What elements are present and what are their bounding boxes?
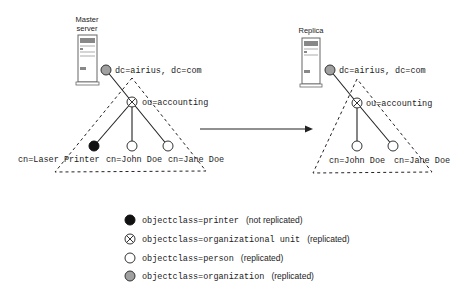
legend-item-organization: objectclass=organization (replicated) bbox=[125, 265, 314, 282]
replica-tree: Replica dc=airius, dc=com ou=accounting … bbox=[298, 26, 450, 173]
crossed-circle-icon bbox=[125, 234, 135, 244]
replica-server-icon bbox=[300, 38, 322, 87]
svg-text:objectclass=organization: objectclass=organization (replicated) bbox=[142, 265, 314, 282]
master-organization-node bbox=[101, 65, 111, 75]
legend-code: objectclass=organization bbox=[142, 272, 264, 282]
svg-text:objectclass=printer (n: objectclass=printer (not replicated) bbox=[142, 209, 303, 226]
legend-note: (replicated) bbox=[241, 253, 284, 263]
master-server-icon bbox=[76, 35, 99, 85]
replica-organization-node bbox=[325, 65, 335, 75]
master-leaf-label-printer: cn=Laser Printer bbox=[18, 155, 100, 165]
master-john-node bbox=[127, 141, 137, 151]
master-ou-node bbox=[127, 97, 137, 107]
legend-note: (replicated) bbox=[307, 234, 350, 244]
replica-ou-node bbox=[352, 98, 362, 108]
master-leaf-label-jane: cn=Jane Doe bbox=[168, 155, 224, 165]
legend-note: (replicated) bbox=[271, 271, 314, 281]
legend-item-printer: objectclass=printer (not replicated) bbox=[125, 209, 303, 226]
replica-john-node bbox=[352, 141, 362, 151]
master-jane-node bbox=[163, 141, 173, 151]
replication-arrow bbox=[200, 126, 313, 133]
replica-ou-label: ou=accounting bbox=[366, 99, 432, 109]
replica-jane-node bbox=[388, 141, 398, 151]
master-server-label-line1: Master bbox=[76, 15, 99, 24]
legend-item-person: objectclass=person (replicated) bbox=[125, 247, 284, 264]
master-leaf-label-john: cn=John Doe bbox=[106, 155, 162, 165]
legend-code: objectclass=organizational unit bbox=[142, 235, 300, 245]
svg-text:objectclass=person (re: objectclass=person (replicated) bbox=[142, 247, 284, 264]
replica-root-label: dc=airius, dc=com bbox=[339, 66, 426, 76]
legend-note: (not replicated) bbox=[246, 215, 303, 225]
master-printer-node bbox=[89, 141, 99, 151]
filled-black-circle-icon bbox=[125, 215, 135, 225]
replica-server-label: Replica bbox=[298, 26, 324, 35]
replication-diagram: Master server dc=airius, dc=com bbox=[0, 0, 471, 301]
gray-circle-icon bbox=[125, 271, 135, 281]
master-root-label: dc=airius, dc=com bbox=[115, 66, 202, 76]
replica-leaf-label-john: cn=John Doe bbox=[329, 156, 385, 166]
master-server-label-line2: server bbox=[77, 24, 98, 33]
legend-code: objectclass=person bbox=[142, 254, 234, 264]
legend: objectclass=printer (not replicated) obj… bbox=[125, 209, 350, 282]
master-ou-label: ou=accounting bbox=[142, 98, 208, 108]
legend-item-ou: objectclass=organizational unit (replica… bbox=[125, 228, 350, 245]
open-circle-icon bbox=[125, 253, 135, 263]
master-tree: Master server dc=airius, dc=com bbox=[18, 15, 224, 172]
legend-code: objectclass=printer bbox=[142, 216, 239, 226]
svg-text:objectclass=organizational uni: objectclass=organizational unit (replica… bbox=[142, 228, 350, 245]
replica-leaf-label-jane: cn=Jane Doe bbox=[394, 156, 450, 166]
